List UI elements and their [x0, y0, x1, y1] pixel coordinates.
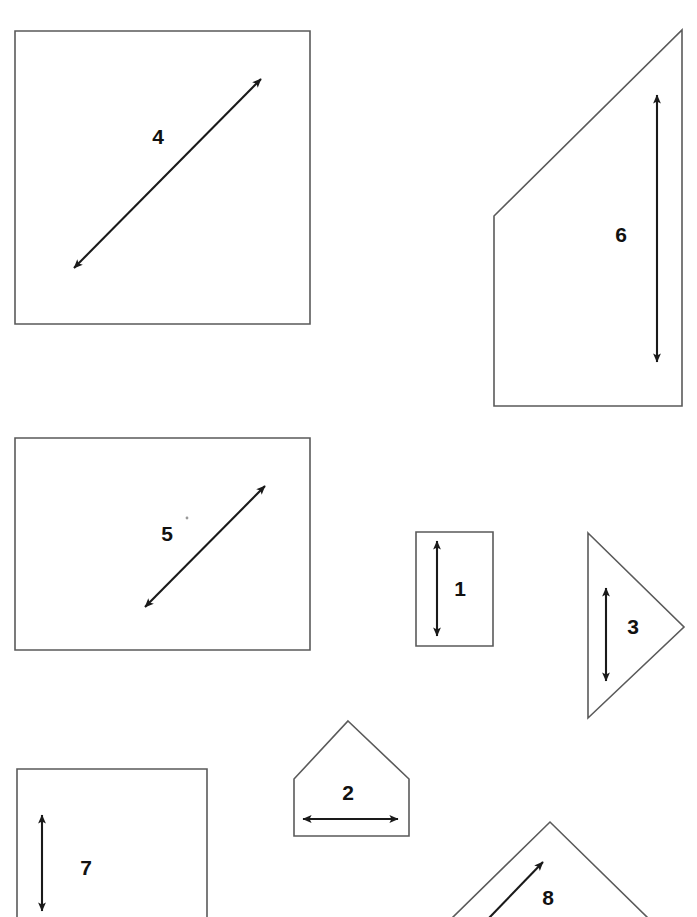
figure-1-group: 1	[416, 532, 493, 646]
figure-2-group: 2	[294, 721, 409, 836]
figure-8-group: 8	[452, 822, 648, 917]
figure-canvas: 4 6 5 1 3 2	[0, 0, 697, 917]
figure-3-group: 3	[588, 533, 684, 718]
figure-4-label: 4	[152, 125, 164, 148]
figure-7-outline	[17, 769, 207, 917]
figure-8-label: 8	[542, 886, 554, 909]
figure-6-label: 6	[615, 223, 627, 246]
figure-7-group: 7	[17, 769, 207, 917]
figure-4-group: 4	[15, 31, 310, 324]
figure-6-group: 6	[494, 30, 682, 406]
worksheet-page: 4 6 5 1 3 2	[0, 0, 697, 917]
figure-3-label: 3	[627, 615, 639, 638]
figure-6-outline	[494, 30, 682, 406]
figure-1-label: 1	[454, 577, 466, 600]
figure-2-label: 2	[342, 781, 354, 804]
figure-7-label: 7	[80, 856, 92, 879]
figure-5-group: 5	[15, 438, 310, 650]
stray-speck	[186, 517, 189, 520]
figure-5-label: 5	[161, 522, 173, 545]
